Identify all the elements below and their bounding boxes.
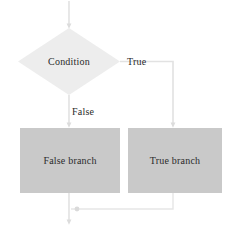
node-true-branch[interactable] bbox=[128, 128, 222, 193]
edge-true-exit bbox=[71, 193, 173, 209]
edge-condition-true bbox=[120, 62, 173, 126]
condition-diamond-shape bbox=[18, 28, 120, 95]
edge-label-false: False bbox=[72, 106, 94, 117]
merge-junction-dot bbox=[75, 207, 80, 212]
edge-label-true: True bbox=[127, 56, 146, 67]
node-false-branch[interactable] bbox=[20, 128, 120, 193]
flowchart-canvas: Condition False branch True branch True … bbox=[0, 0, 238, 234]
flowchart-connectors bbox=[0, 0, 238, 234]
